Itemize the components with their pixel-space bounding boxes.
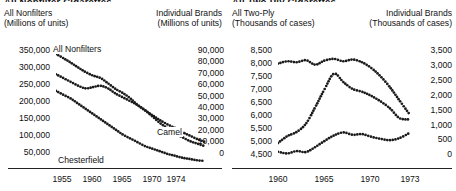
x-axis-ticks-nonfilters: 1955 1960 1965 1970 1974 — [0, 174, 228, 188]
x-tick: 1955 — [52, 174, 71, 184]
y-tick: 5,500 — [228, 124, 272, 133]
plot-area-nonfilters — [56, 46, 212, 168]
y2-tick: 500 — [414, 135, 452, 144]
panel-title-nonfilters: All Nonfilter Cigarettes — [4, 0, 112, 2]
axis-header-left-line1: All Nonfilters — [4, 8, 68, 18]
axis-header-right-line1: Individual Brands — [156, 8, 222, 18]
x-tick: 1970 — [360, 174, 379, 184]
y-tick: 200,000 — [0, 97, 50, 106]
x-axis-line-nonfilters — [8, 168, 222, 169]
y-tick: 7,500 — [228, 72, 272, 81]
x-tick: 1965 — [314, 174, 333, 184]
y-tick: 250,000 — [0, 80, 50, 89]
axis-header-left-line2: (Millions of units) — [4, 18, 68, 28]
series-canvas-twoply — [278, 46, 418, 168]
series-canvas-nonfilters — [56, 46, 212, 168]
axis-header-left-twoply: All Two-Ply (Thousands of cases) — [232, 8, 315, 29]
axis-header-right-nonfilters: Individual Brands (Millions of units) — [156, 8, 222, 29]
axis-header-left-line1: All Two-Ply — [232, 8, 315, 18]
axis-header-right-twoply: Individual Brands (Thousands of cases) — [369, 8, 452, 29]
y2-tick: 1,000 — [414, 121, 452, 130]
axis-header-right-line1: Individual Brands — [369, 8, 452, 18]
x-tick: 1960 — [268, 174, 287, 184]
panel-title-twoply: All Two-Ply Cigarettes — [232, 0, 336, 2]
x-axis-line-twoply — [232, 168, 452, 169]
axis-header-right-line2: (Thousands of cases) — [369, 18, 452, 28]
y-tick: 8,500 — [228, 46, 272, 55]
plot-area-twoply — [278, 46, 418, 168]
axis-header-left-line2: (Thousands of cases) — [232, 18, 315, 28]
series-label-chesterfield: Chesterfield — [57, 155, 105, 165]
y-tick: 6,500 — [228, 98, 272, 107]
y-tick: 8,000 — [228, 59, 272, 68]
x-axis-ticks-twoply: 1960 1965 1970 1973 — [228, 174, 456, 188]
x-tick: 1973 — [400, 174, 419, 184]
axis-header-left-nonfilters: All Nonfilters (Millions of units) — [4, 8, 68, 29]
y-tick: 350,000 — [0, 46, 50, 55]
series-label-camel: Camel — [156, 127, 183, 137]
y-tick: 5,000 — [228, 137, 272, 146]
y2-tick: 2,000 — [414, 91, 452, 100]
y-tick: 100,000 — [0, 131, 50, 140]
y2-tick: 3,500 — [414, 46, 452, 55]
y2-tick: 3,000 — [414, 61, 452, 70]
y-tick: 150,000 — [0, 114, 50, 123]
chart-panel-nonfilters: All Nonfilter Cigarettes All Nonfilters … — [0, 0, 228, 191]
x-tick: 1960 — [82, 174, 101, 184]
y-tick: 7,000 — [228, 85, 272, 94]
y-tick: 6,000 — [228, 111, 272, 120]
y-tick: 300,000 — [0, 63, 50, 72]
x-tick: 1974 — [166, 174, 185, 184]
x-tick: 1970 — [142, 174, 161, 184]
series-label-all-nonfilters: All Nonfilters — [52, 44, 102, 54]
x-tick: 1965 — [112, 174, 131, 184]
axis-header-right-line2: (Millions of units) — [156, 18, 222, 28]
y2-tick: 0 — [414, 150, 452, 159]
chart-panel-twoply: All Two-Ply Cigarettes All Two-Ply (Thou… — [228, 0, 456, 191]
y2-tick: 1,500 — [414, 106, 452, 115]
y-tick: 4,500 — [228, 150, 272, 159]
y-tick: 50,000 — [0, 148, 50, 157]
y2-tick: 2,500 — [414, 76, 452, 85]
